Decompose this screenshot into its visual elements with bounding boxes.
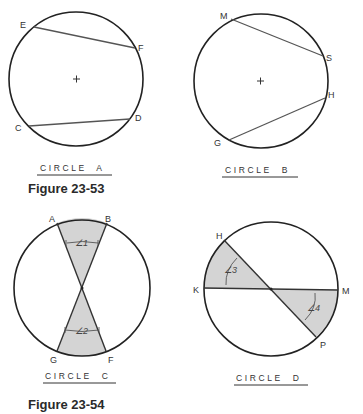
center-cross-icon bbox=[257, 78, 264, 85]
chord-ef bbox=[34, 27, 135, 48]
point-label-e: E bbox=[20, 20, 26, 30]
circle-b-title: CIRCLE B bbox=[225, 165, 290, 175]
circle-c-diagram: ∠1 ∠2 A B G F CIRCLE C bbox=[14, 214, 150, 383]
circle-a-title: CIRCLE A bbox=[40, 163, 105, 173]
figure-23-54-caption: Figure 23-54 bbox=[28, 397, 105, 412]
circle-b-diagram: M S H G CIRCLE B bbox=[194, 11, 335, 177]
chord-cd bbox=[29, 119, 130, 126]
point-label-a: A bbox=[49, 214, 55, 224]
point-label-b: B bbox=[105, 214, 111, 224]
point-label-k: K bbox=[193, 285, 199, 295]
center-point bbox=[81, 287, 84, 290]
center-cross-icon bbox=[73, 76, 80, 83]
point-label-h: H bbox=[216, 231, 223, 241]
circle-d-diagram: ∠3 ∠4 H K M P CIRCLE D bbox=[193, 222, 350, 385]
point-label-f: F bbox=[138, 43, 144, 53]
point-label-g: G bbox=[50, 355, 57, 365]
center-point bbox=[270, 288, 273, 291]
sector-ab-shade bbox=[57, 218, 107, 288]
point-label-h: H bbox=[328, 90, 335, 100]
point-label-f: F bbox=[108, 355, 114, 365]
figure-23-53-caption: Figure 23-53 bbox=[28, 181, 105, 196]
point-label-s: S bbox=[326, 53, 332, 63]
angle-3-label: ∠3 bbox=[224, 265, 237, 275]
circle-a-diagram: E F C D CIRCLE A bbox=[9, 12, 144, 175]
point-label-m: M bbox=[220, 11, 228, 21]
angle-2-label: ∠2 bbox=[75, 326, 88, 336]
point-label-d: D bbox=[135, 113, 142, 123]
sector-mp-shade bbox=[271, 289, 338, 337]
sector-gf-shade bbox=[57, 288, 106, 356]
point-label-p: P bbox=[320, 340, 326, 350]
point-label-g: G bbox=[214, 138, 221, 148]
angle-4-label: ∠4 bbox=[307, 303, 320, 313]
circle-d-title: CIRCLE D bbox=[236, 373, 301, 383]
chord-gh bbox=[229, 98, 325, 140]
point-label-c: C bbox=[15, 123, 22, 133]
circle-c-title: CIRCLE C bbox=[45, 371, 110, 381]
sector-hk-shade bbox=[204, 240, 271, 289]
chord-ms bbox=[231, 19, 323, 56]
geometry-figures: E F C D CIRCLE A Figure 23-53 M S H G CI… bbox=[0, 0, 363, 414]
point-label-m: M bbox=[342, 286, 350, 296]
angle-1-label: ∠1 bbox=[75, 238, 88, 248]
